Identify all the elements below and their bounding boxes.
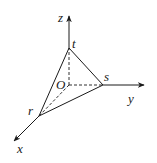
- vertex-s-label: s: [104, 69, 109, 84]
- y-axis-label: y: [126, 91, 134, 106]
- vertex-t-label: t: [72, 36, 76, 51]
- x-axis: [14, 116, 39, 141]
- z-axis-label: z: [57, 10, 63, 25]
- origin-label: O: [56, 77, 66, 92]
- vertex-r-label: r: [28, 103, 34, 118]
- edge-r-s: [39, 85, 103, 116]
- edge-t-s: [69, 48, 103, 85]
- x-axis-label: x: [16, 141, 23, 156]
- tetrahedron-diagram: z t O s y r x: [0, 0, 157, 163]
